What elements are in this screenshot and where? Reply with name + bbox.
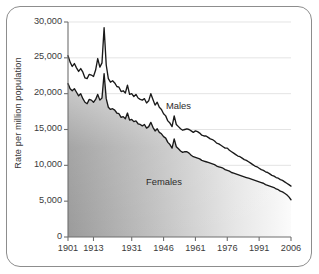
- series-label-males: Males: [166, 100, 191, 111]
- x-tick-label: 1913: [73, 243, 113, 253]
- y-axis-title: Rate per million population: [13, 33, 23, 193]
- chart-figure: 05,00010,00015,00020,00025,00030,000 190…: [0, 0, 319, 274]
- x-tick-label: 2006: [271, 243, 311, 253]
- x-axis-tick-labels: 19011913193119461961197619912006: [0, 0, 319, 274]
- series-label-females: Females: [146, 176, 182, 187]
